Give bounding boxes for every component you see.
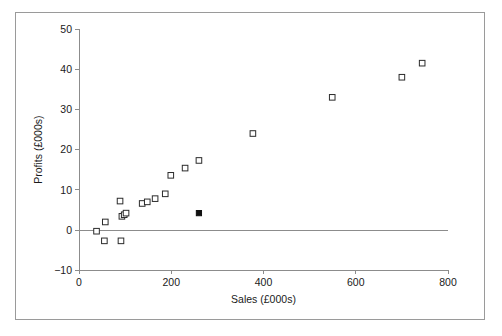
axes-group [75,29,448,274]
x-tick-label: 800 [439,276,457,288]
data-marker-highlighted [196,211,201,216]
data-marker [117,198,123,204]
y-tick-label: −10 [54,264,72,276]
y-tick-label: 0 [66,224,72,236]
data-marker [329,95,335,101]
y-axis-title: Profits (£000s) [32,115,44,183]
y-tick-label: 10 [60,184,72,196]
data-marker [144,199,150,205]
y-tick-label: 30 [60,103,72,115]
data-marker [94,228,100,234]
y-tick-label: 40 [60,63,72,75]
x-tick-label: 200 [162,276,180,288]
data-markers-group [94,60,425,243]
data-marker [250,131,256,137]
data-marker [102,238,108,244]
data-marker [152,196,158,202]
scatter-plot-figure: −10010203040500200400600800 Sales (£000s… [0,0,502,336]
data-marker [182,165,188,171]
x-tick-label: 0 [76,276,82,288]
x-tick-label: 600 [347,276,365,288]
data-marker [123,210,129,216]
data-marker [419,60,425,66]
plot-svg: −10010203040500200400600800 Sales (£000s… [0,0,502,336]
data-marker [102,219,108,225]
data-marker [196,158,202,164]
data-marker [118,238,124,244]
tick-labels-group: −10010203040500200400600800 [54,23,457,288]
y-tick-label: 20 [60,143,72,155]
data-marker [168,173,174,179]
data-marker [399,74,405,80]
x-axis-title: Sales (£000s) [231,293,296,305]
y-tick-label: 50 [60,23,72,35]
data-marker [162,191,168,197]
x-tick-label: 400 [255,276,273,288]
plot-area: −10010203040500200400600800 Sales (£000s… [0,0,502,336]
